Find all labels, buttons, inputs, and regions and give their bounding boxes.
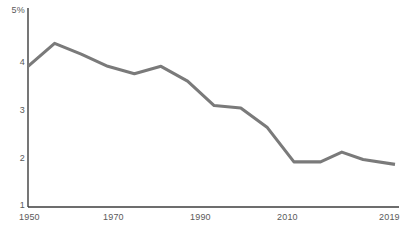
x-axis-tick-label-3: 2010 [277, 212, 298, 222]
y-axis-tick-label-0: 5% [1, 5, 25, 15]
series-group [28, 43, 395, 164]
chart-canvas [0, 0, 413, 232]
y-axis-tick-label-2: 3 [1, 105, 25, 115]
y-axis-tick-label-1: 4 [1, 57, 25, 67]
x-axis-tick-label-4: 2019 [379, 212, 400, 222]
axis-group [28, 8, 399, 207]
y-axis-tick-label-4: 1 [1, 200, 25, 210]
x-axis-tick-label-1: 1970 [103, 212, 124, 222]
x-axis-tick-label-0: 1950 [19, 212, 40, 222]
x-axis-tick-label-2: 1990 [190, 212, 211, 222]
series-line-rate [28, 43, 395, 164]
line-chart: 5% 4 3 2 1 1950 1970 1990 2010 2019 [0, 0, 413, 232]
y-axis-tick-label-3: 2 [1, 153, 25, 163]
